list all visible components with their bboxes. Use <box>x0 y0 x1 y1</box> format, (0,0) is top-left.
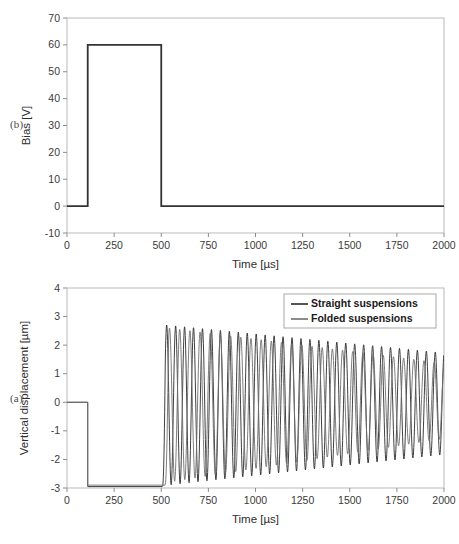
x-tick-label: 1000 <box>244 494 268 506</box>
y-tick-label: 30 <box>48 119 60 131</box>
x-tick-label: 1250 <box>291 239 315 251</box>
y-tick-label: -10 <box>45 227 60 239</box>
x-tick-label: 2000 <box>432 494 456 506</box>
y-tick-label: -2 <box>51 453 60 465</box>
x-tick-label: 0 <box>64 494 70 506</box>
x-tick-label: 1500 <box>338 239 362 251</box>
y-tick-label: 60 <box>48 38 60 50</box>
y-tick-label: -1 <box>51 424 60 436</box>
displacement-chart: -3-2-10123402505007501000125015001750200… <box>0 280 459 544</box>
y-tick-label: 70 <box>48 12 60 24</box>
y-tick-label: 4 <box>54 282 60 294</box>
x-tick-label: 500 <box>152 494 170 506</box>
y-tick-label: -3 <box>51 482 60 494</box>
x-tick-label: 1250 <box>291 494 315 506</box>
x-tick-label: 250 <box>105 239 123 251</box>
y-tick-label: 0 <box>54 396 60 408</box>
x-tick-label: 500 <box>152 239 170 251</box>
x-axis-title: Time [µs] <box>232 513 279 525</box>
y-tick-label: 10 <box>48 173 60 185</box>
y-axis-title: Vertical displacement [µm] <box>18 321 30 455</box>
legend-label: Straight suspensions <box>311 297 418 309</box>
y-tick-label: 3 <box>54 310 60 322</box>
y-tick-label: 50 <box>48 65 60 77</box>
series-line <box>67 45 444 206</box>
x-tick-label: 1750 <box>385 494 409 506</box>
x-tick-label: 2000 <box>432 239 456 251</box>
x-axis-title: Time [µs] <box>232 258 279 270</box>
x-tick-label: 750 <box>200 494 218 506</box>
y-tick-label: 2 <box>54 339 60 351</box>
x-tick-label: 750 <box>200 239 218 251</box>
x-tick-label: 1000 <box>244 239 268 251</box>
x-tick-label: 1500 <box>338 494 362 506</box>
displacement-panel: (a) -3-2-1012340250500750100012501500175… <box>0 280 459 544</box>
plot-series-group <box>67 325 444 487</box>
plot-series-group <box>67 45 444 206</box>
y-tick-label: 40 <box>48 92 60 104</box>
legend-label: Folded suspensions <box>311 312 413 324</box>
x-tick-label: 0 <box>64 239 70 251</box>
panel-tag-b: (b) <box>10 118 23 130</box>
x-tick-label: 1750 <box>385 239 409 251</box>
y-tick-label: 1 <box>54 367 60 379</box>
y-tick-label: 20 <box>48 146 60 158</box>
chart-legend: Straight suspensionsFolded suspensions <box>284 294 436 328</box>
bias-panel: (b) -10010203040506070025050075010001250… <box>0 0 459 280</box>
x-tick-label: 250 <box>105 494 123 506</box>
bias-chart: -100102030405060700250500750100012501500… <box>0 0 459 280</box>
figure-root: (b) -10010203040506070025050075010001250… <box>0 0 459 544</box>
y-tick-label: 0 <box>54 200 60 212</box>
panel-tag-a: (a) <box>10 392 23 404</box>
